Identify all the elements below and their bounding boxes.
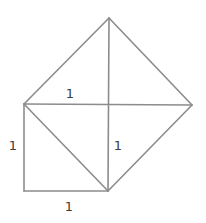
small-square-diagonal xyxy=(24,104,108,191)
geometry-diagram: 1 1 1 1 xyxy=(0,0,206,223)
vertical-line xyxy=(108,18,109,191)
large-square-top-right-edge xyxy=(109,18,192,105)
label-top: 1 xyxy=(66,86,74,101)
label-bottom: 1 xyxy=(65,199,73,214)
label-middle: 1 xyxy=(114,138,122,153)
label-left: 1 xyxy=(9,138,17,153)
